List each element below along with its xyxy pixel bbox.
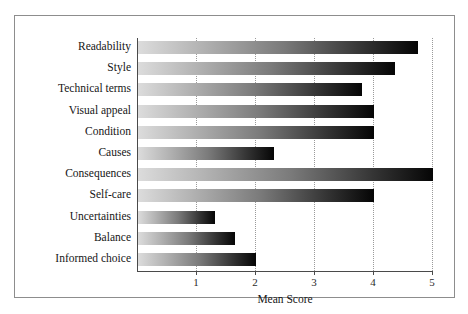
category-label: Readability xyxy=(0,40,131,53)
x-axis-label: Mean Score xyxy=(137,293,433,305)
category-label: Consequences xyxy=(0,167,131,180)
category-label: Technical terms xyxy=(0,82,131,95)
x-tick-label-2: 2 xyxy=(240,276,270,288)
x-tick-label-4: 4 xyxy=(358,276,388,288)
x-tick-label-3: 3 xyxy=(299,276,329,288)
category-label: Balance xyxy=(0,231,131,244)
category-label: Uncertainties xyxy=(0,210,131,223)
bar xyxy=(138,211,215,224)
bar xyxy=(138,253,256,266)
bar xyxy=(138,41,418,54)
category-label: Informed choice xyxy=(0,252,131,265)
x-tick-mark-3 xyxy=(314,271,315,275)
x-tick-label-1: 1 xyxy=(181,276,211,288)
bar xyxy=(138,147,274,160)
bar xyxy=(138,232,235,245)
category-label: Condition xyxy=(0,125,131,138)
figure-canvas: · · · · · · · · · · · · · · · · · · · · … xyxy=(0,0,468,314)
category-label: Style xyxy=(0,61,131,74)
bar xyxy=(138,62,395,75)
x-tick-mark-2 xyxy=(255,271,256,275)
category-label: Causes xyxy=(0,146,131,159)
bar xyxy=(138,83,362,96)
x-tick-mark-5 xyxy=(432,271,433,275)
x-tick-mark-1 xyxy=(196,271,197,275)
clipped-caption-text: · · · · · · · · · · · · · · · · · · · · … xyxy=(0,0,468,2)
bar xyxy=(138,168,433,181)
bar xyxy=(138,105,374,118)
x-axis-line xyxy=(137,271,433,272)
bar xyxy=(138,126,374,139)
chart-frame-border: ReadabilityStyleTechnical termsVisual ap… xyxy=(14,15,455,298)
x-tick-mark-4 xyxy=(373,271,374,275)
category-label: Self-care xyxy=(0,188,131,201)
bar xyxy=(138,189,374,202)
gridline-x-5 xyxy=(432,38,433,271)
category-label: Visual appeal xyxy=(0,104,131,117)
x-tick-label-5: 5 xyxy=(417,276,447,288)
plot-area: ReadabilityStyleTechnical termsVisual ap… xyxy=(137,38,432,271)
clipped-caption-strip: · · · · · · · · · · · · · · · · · · · · … xyxy=(0,0,468,13)
